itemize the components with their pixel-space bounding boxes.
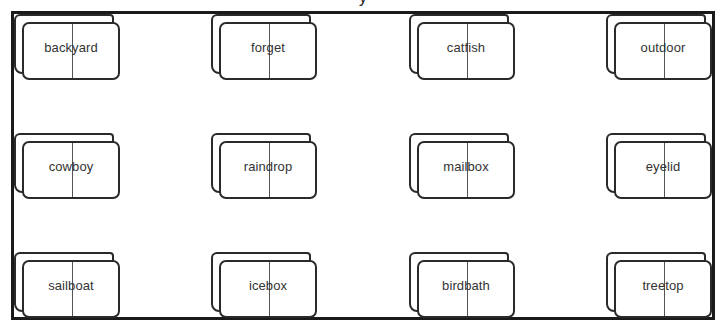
word-card-sailboat[interactable]: sailboat [14,252,126,324]
word-card-forget[interactable]: forget [211,14,323,86]
card-front-face: birdbath [417,260,515,318]
card-front-face: treetop [614,260,712,318]
word-card-cowboy[interactable]: cowboy [14,133,126,205]
card-label: raindrop [221,159,315,174]
word-card-treetop[interactable]: treetop [606,252,718,324]
card-label: outdoor [616,40,710,55]
card-front-face: outdoor [614,22,712,80]
word-card-mailbox[interactable]: mailbox [409,133,521,205]
card-label: birdbath [419,278,513,293]
card-front-face: raindrop [219,141,317,199]
card-front-face: catfish [417,22,515,80]
card-front-face: forget [219,22,317,80]
card-label: treetop [616,278,710,293]
word-card-birdbath[interactable]: birdbath [409,252,521,324]
word-card-icebox[interactable]: icebox [211,252,323,324]
word-card-catfish[interactable]: catfish [409,14,521,86]
card-front-face: backyard [22,22,120,80]
card-label: cowboy [24,159,118,174]
card-front-face: cowboy [22,141,120,199]
card-front-face: mailbox [417,141,515,199]
word-card-backyard[interactable]: backyard [14,14,126,86]
card-label: catfish [419,40,513,55]
card-front-face: icebox [219,260,317,318]
card-label: eyelid [616,159,710,174]
word-card-outdoor[interactable]: outdoor [606,14,718,86]
card-front-face: eyelid [614,141,712,199]
word-card-raindrop[interactable]: raindrop [211,133,323,205]
card-label: mailbox [419,159,513,174]
card-front-face: sailboat [22,260,120,318]
card-label: icebox [221,278,315,293]
card-label: backyard [24,40,118,55]
title-fragment: y [0,0,726,6]
word-card-eyelid[interactable]: eyelid [606,133,718,205]
card-label: forget [221,40,315,55]
card-label: sailboat [24,278,118,293]
